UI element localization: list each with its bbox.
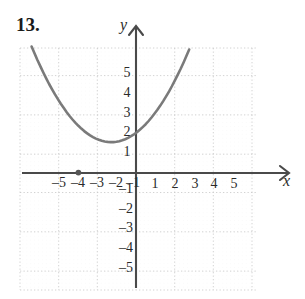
y-tick-label-4: 4 (120, 85, 134, 101)
y-tick-label--4: –4 (117, 240, 135, 256)
y-tick-label--3: –3 (117, 220, 135, 236)
y-tick-label--2: –2 (117, 201, 135, 217)
y-tick-label-2: 2 (120, 124, 134, 140)
x-tick-label--5: –5 (50, 175, 68, 191)
y-tick-label-3: 3 (120, 105, 134, 121)
y-tick-label--5: –5 (117, 260, 135, 276)
grid-minor-dots (20, 48, 256, 290)
x-tick-label-4: 4 (207, 176, 221, 192)
x-tick-label-3: 3 (188, 176, 202, 192)
y-tick-label-1: 1 (120, 144, 134, 160)
x-tick-label--3: –3 (88, 175, 106, 191)
coordinate-graph (0, 0, 305, 299)
x-tick-label-1: 1 (148, 176, 162, 192)
x-tick-label--4: –4 (69, 175, 87, 191)
x-tick-label-2: 2 (168, 176, 182, 192)
x-axis-label: x (283, 172, 290, 190)
y-tick-label--1: –1 (117, 181, 135, 197)
y-axis-label: y (120, 16, 127, 34)
x-tick-label-5: 5 (227, 176, 241, 192)
exercise-figure: 13. (0, 0, 305, 299)
y-tick-label-5: 5 (120, 65, 134, 81)
